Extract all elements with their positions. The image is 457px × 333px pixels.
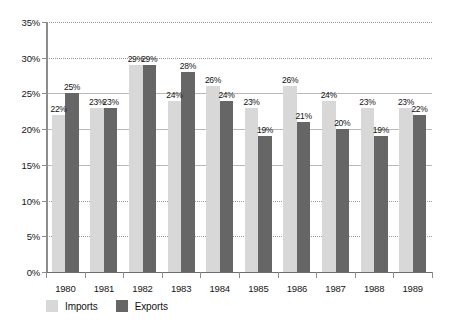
x-tick-mark-5 bbox=[239, 272, 240, 278]
y-tick-label-10: 10% bbox=[0, 195, 40, 206]
legend-item-exports: Exports bbox=[116, 300, 168, 312]
y-tick-label-35: 35% bbox=[0, 17, 40, 28]
x-tick-mark-0 bbox=[46, 272, 47, 278]
bar-imports-1980 bbox=[52, 115, 66, 272]
bar-exports-1984 bbox=[220, 101, 234, 272]
bar-value-exports-1988: 19% bbox=[364, 125, 398, 135]
x-tick-mark-4 bbox=[200, 272, 201, 278]
legend-label-exports: Exports bbox=[135, 301, 168, 312]
bar-exports-1981 bbox=[104, 108, 118, 272]
plot-area: 22%25%23%23%29%29%24%28%26%24%23%19%26%2… bbox=[46, 22, 432, 272]
bar-chart: 22%25%23%23%29%29%24%28%26%24%23%19%26%2… bbox=[0, 0, 457, 333]
bar-exports-1987 bbox=[336, 129, 350, 272]
y-tick-label-5: 5% bbox=[0, 231, 40, 242]
y-tick-mark-35 bbox=[42, 22, 47, 23]
bar-value-imports-1985: 23% bbox=[235, 97, 269, 107]
legend-swatch-imports-icon bbox=[46, 300, 58, 312]
bar-exports-1988 bbox=[374, 136, 388, 272]
bar-value-exports-1980: 25% bbox=[55, 82, 89, 92]
bar-exports-1985 bbox=[258, 136, 272, 272]
x-tick-mark-8 bbox=[355, 272, 356, 278]
y-tick-label-30: 30% bbox=[0, 52, 40, 63]
bar-exports-1983 bbox=[181, 72, 195, 272]
bar-value-exports-1985: 19% bbox=[248, 125, 282, 135]
bar-imports-1984 bbox=[206, 86, 220, 272]
bar-value-imports-1984: 26% bbox=[196, 75, 230, 85]
bar-imports-1989 bbox=[399, 108, 413, 272]
x-tick-label-1989: 1989 bbox=[383, 283, 443, 294]
bar-exports-1980 bbox=[65, 93, 79, 272]
bar-imports-1982 bbox=[129, 65, 143, 272]
bar-value-imports-1983: 24% bbox=[157, 90, 191, 100]
x-tick-mark-end bbox=[432, 272, 433, 278]
y-tick-mark-25 bbox=[42, 93, 47, 94]
bar-value-exports-1983: 28% bbox=[171, 61, 205, 71]
y-tick-label-0: 0% bbox=[0, 267, 40, 278]
y-tick-mark-20 bbox=[42, 129, 47, 130]
bar-exports-1982 bbox=[143, 65, 157, 272]
x-tick-mark-7 bbox=[316, 272, 317, 278]
x-tick-mark-1 bbox=[85, 272, 86, 278]
y-tick-mark-15 bbox=[42, 165, 47, 166]
chart-legend: Imports Exports bbox=[46, 300, 168, 312]
x-tick-mark-3 bbox=[162, 272, 163, 278]
bar-value-imports-1986: 26% bbox=[273, 75, 307, 85]
bar-imports-1981 bbox=[90, 108, 104, 272]
bar-value-imports-1987: 24% bbox=[312, 90, 346, 100]
bar-value-exports-1986: 21% bbox=[287, 111, 321, 121]
gridline-30 bbox=[46, 58, 432, 59]
bar-value-exports-1981: 23% bbox=[94, 97, 128, 107]
y-tick-mark-30 bbox=[42, 58, 47, 59]
y-tick-label-25: 25% bbox=[0, 88, 40, 99]
bar-exports-1986 bbox=[297, 122, 311, 272]
x-tick-mark-9 bbox=[393, 272, 394, 278]
gridline-35 bbox=[46, 22, 432, 23]
legend-swatch-exports-icon bbox=[116, 300, 128, 312]
x-tick-mark-6 bbox=[278, 272, 279, 278]
bar-value-exports-1982: 29% bbox=[132, 54, 166, 64]
bar-imports-1983 bbox=[168, 101, 182, 272]
y-tick-mark-10 bbox=[42, 201, 47, 202]
bar-exports-1989 bbox=[413, 115, 427, 272]
y-tick-label-15: 15% bbox=[0, 159, 40, 170]
x-tick-mark-2 bbox=[123, 272, 124, 278]
legend-item-imports: Imports bbox=[46, 300, 98, 312]
y-tick-mark-5 bbox=[42, 236, 47, 237]
bar-value-exports-1987: 20% bbox=[325, 118, 359, 128]
bar-value-imports-1988: 23% bbox=[350, 97, 384, 107]
y-tick-label-20: 20% bbox=[0, 124, 40, 135]
legend-label-imports: Imports bbox=[65, 301, 98, 312]
bar-value-exports-1989: 22% bbox=[402, 104, 436, 114]
